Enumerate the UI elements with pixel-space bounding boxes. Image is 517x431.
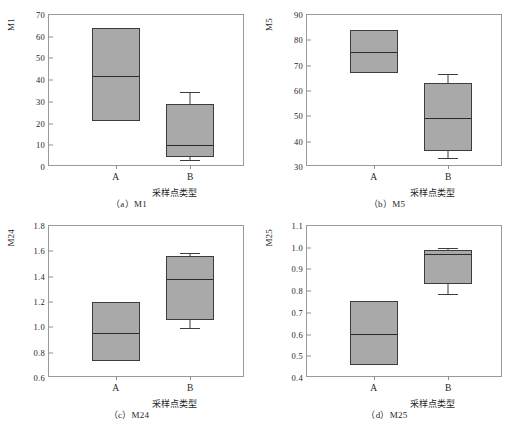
whisker-cap-lower	[180, 160, 200, 161]
whisker-cap-upper	[180, 92, 200, 93]
y-tick-mark	[307, 91, 311, 92]
x-tick-mark	[448, 376, 449, 380]
y-tick-label: 50	[294, 111, 303, 121]
x-tick-label: A	[112, 172, 119, 182]
x-tick-mark	[116, 376, 117, 380]
median-line	[425, 254, 471, 255]
y-tick-mark	[49, 123, 53, 124]
y-tick-label: 40	[294, 137, 303, 147]
y-tick-label: 0.9	[291, 264, 303, 274]
median-line	[351, 52, 397, 53]
panel-caption: （c）M24	[0, 408, 258, 421]
y-tick-mark	[307, 40, 311, 41]
whisker-cap-upper	[180, 253, 200, 254]
y-tick-label: 90	[294, 10, 303, 20]
whisker-cap-upper	[438, 248, 458, 249]
median-line	[351, 334, 397, 335]
y-tick-label: 1.0	[291, 243, 303, 253]
y-tick-label: 0	[40, 162, 45, 172]
y-tick-label: 0.8	[291, 286, 303, 296]
whisker-cap-lower	[438, 158, 458, 159]
y-tick-label: 80	[294, 35, 303, 45]
box-b	[166, 104, 214, 157]
y-tick-mark	[307, 247, 311, 248]
y-axis-title: M1	[6, 18, 16, 31]
median-line	[93, 333, 139, 334]
plot-inner-1: 30405060708090AB	[307, 15, 501, 165]
y-tick-label: 1.0	[33, 322, 45, 332]
x-tick-mark	[374, 376, 375, 380]
x-tick-label: B	[445, 383, 451, 393]
y-tick-mark	[307, 141, 311, 142]
plot-area: 0.40.50.60.70.80.91.01.1AB	[306, 225, 502, 377]
x-tick-label: A	[370, 172, 377, 182]
boxplot-figure: M1 010203040506070AB 采样点类型 （a）M1 M5 3040…	[0, 0, 517, 431]
y-tick-mark	[49, 251, 53, 252]
y-tick-mark	[307, 291, 311, 292]
y-tick-label: 1.1	[291, 221, 303, 231]
x-tick-label: A	[370, 383, 377, 393]
y-tick-label: 30	[36, 97, 45, 107]
plot-inner-0: 010203040506070AB	[49, 15, 243, 165]
median-line	[167, 145, 213, 146]
whisker-cap-upper	[438, 74, 458, 75]
median-line	[93, 76, 139, 77]
y-tick-label: 1.8	[33, 221, 45, 231]
y-tick-label: 60	[36, 32, 45, 42]
y-tick-mark	[49, 145, 53, 146]
y-tick-label: 1.2	[33, 297, 45, 307]
y-tick-label: 0.8	[33, 348, 45, 358]
y-axis-title: M24	[6, 229, 16, 247]
y-tick-mark	[49, 327, 53, 328]
y-tick-label: 0.7	[291, 308, 303, 318]
y-tick-label: 1.6	[33, 246, 45, 256]
y-tick-mark	[49, 80, 53, 81]
y-tick-label: 0.6	[33, 373, 45, 383]
y-tick-label: 60	[294, 86, 303, 96]
panel-m5: M5 30405060708090AB 采样点类型 （b）M5	[258, 0, 516, 215]
x-tick-mark	[190, 376, 191, 380]
y-tick-label: 20	[36, 119, 45, 129]
box-b	[166, 256, 214, 321]
x-tick-label: B	[445, 172, 451, 182]
y-tick-label: 0.6	[291, 330, 303, 340]
box-b	[424, 83, 472, 151]
whisker-upper	[448, 74, 449, 84]
plot-inner-2: 0.60.81.01.21.41.61.8AB	[49, 226, 243, 376]
y-tick-mark	[49, 101, 53, 102]
y-axis-title: M25	[264, 229, 274, 247]
panel-caption: （b）M5	[258, 197, 516, 210]
plot-area: 010203040506070AB	[48, 14, 244, 166]
y-tick-mark	[307, 312, 311, 313]
panel-caption: （d）M25	[258, 408, 516, 421]
whisker-lower	[448, 284, 449, 294]
y-tick-label: 70	[294, 61, 303, 71]
y-tick-mark	[49, 58, 53, 59]
median-line	[425, 118, 471, 119]
y-tick-label: 0.4	[291, 373, 303, 383]
plot-area: 0.60.81.01.21.41.61.8AB	[48, 225, 244, 377]
x-tick-mark	[190, 165, 191, 169]
x-tick-label: B	[187, 172, 193, 182]
y-tick-mark	[307, 334, 311, 335]
y-tick-label: 0.5	[291, 351, 303, 361]
panel-m24: M24 0.60.81.01.21.41.61.8AB 采样点类型 （c）M24	[0, 211, 258, 426]
y-tick-mark	[307, 65, 311, 66]
box-a	[92, 302, 140, 361]
whisker-cap-lower	[438, 294, 458, 295]
y-tick-mark	[307, 356, 311, 357]
y-tick-mark	[49, 302, 53, 303]
box-b	[424, 250, 472, 284]
y-tick-label: 10	[36, 140, 45, 150]
x-tick-label: B	[187, 383, 193, 393]
y-tick-label: 1.4	[33, 272, 45, 282]
plot-inner-3: 0.40.50.60.70.80.91.01.1AB	[307, 226, 501, 376]
whisker-cap-lower	[180, 328, 200, 329]
y-axis-title: M5	[264, 18, 274, 31]
panel-caption: （a）M1	[0, 197, 258, 210]
median-line	[167, 279, 213, 280]
x-tick-mark	[116, 165, 117, 169]
box-a	[350, 30, 398, 74]
x-tick-mark	[448, 165, 449, 169]
x-tick-label: A	[112, 383, 119, 393]
